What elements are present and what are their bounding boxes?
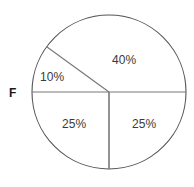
pie-slice-label-40: 40% bbox=[112, 54, 136, 66]
pie-chart-figure: F 10% 40% 25% 25% bbox=[0, 0, 194, 187]
marker-label-f: F bbox=[9, 87, 16, 99]
pie-slice-label-10: 10% bbox=[40, 71, 64, 83]
pie-slice-label-25-left: 25% bbox=[62, 118, 86, 130]
pie-chart-svg bbox=[0, 0, 194, 187]
pie-slice-label-25-right: 25% bbox=[132, 118, 156, 130]
